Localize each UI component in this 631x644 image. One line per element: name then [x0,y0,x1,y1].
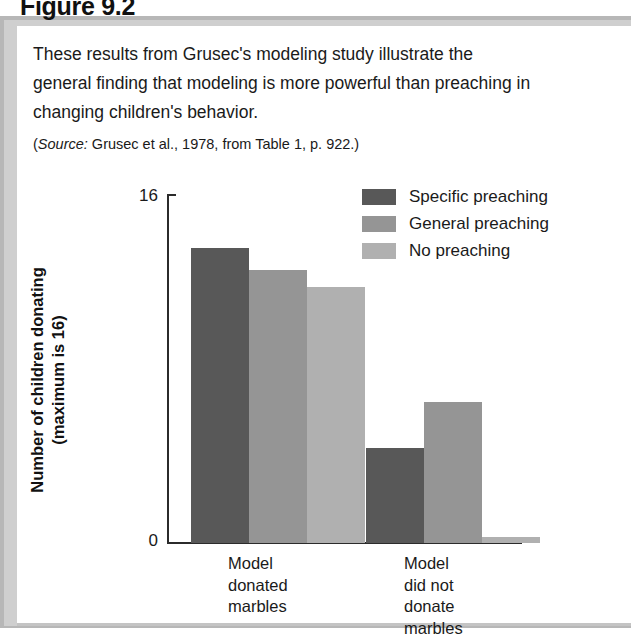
x-axis-category-0-line-0: Model [228,553,288,575]
legend-item-0: Specific preaching [362,183,549,210]
bars-layer [0,0,631,543]
x-axis-category-1-line-3: marbles [404,618,463,640]
figure-number-heading: Figure 9.2 [20,0,135,21]
legend-label-2: No preaching [409,241,510,261]
bar-0-0 [191,248,249,543]
bar-1-1 [424,402,482,543]
x-axis-category-0-line-2: marbles [228,596,288,618]
bar-1-0 [366,448,424,543]
bar-chart: 16 0 Number of children donating (maximu… [0,0,631,644]
bar-0-1 [249,270,307,543]
legend-label-0: Specific preaching [409,187,548,207]
x-axis-category-0-line-1: donated [228,575,288,597]
legend-swatch-icon-0 [362,189,396,205]
x-axis-category-1-line-2: donate [404,596,463,618]
legend-label-1: General preaching [409,214,549,234]
legend-item-1: General preaching [362,210,549,237]
legend-swatch-icon-2 [362,243,396,259]
figure-page: Figure 9.2 These results from Grusec's m… [0,0,631,644]
x-axis-category-1-line-0: Model [404,553,463,575]
bar-1-2 [482,537,540,544]
legend-item-2: No preaching [362,237,549,264]
legend-swatch-icon-1 [362,216,396,232]
chart-legend: Specific preachingGeneral preachingNo pr… [362,183,549,264]
x-axis-category-label-0: Modeldonatedmarbles [228,553,288,618]
x-axis-category-label-1: Modeldid notdonatemarbles [404,553,463,639]
bar-0-2 [307,287,365,543]
x-axis-category-1-line-1: did not [404,575,463,597]
